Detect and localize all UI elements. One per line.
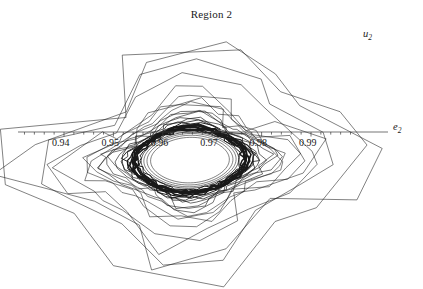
x-tick-label: 0.95 bbox=[101, 137, 119, 148]
x-tick-label: 0.99 bbox=[299, 137, 317, 148]
orbit-curves-group bbox=[0, 42, 382, 287]
x-tick-label: 0.98 bbox=[250, 137, 268, 148]
orbit-3 bbox=[42, 59, 333, 265]
y-axis-label: u2 bbox=[363, 28, 372, 42]
x-tick-label: 0.97 bbox=[200, 137, 218, 148]
axes-group bbox=[0, 42, 388, 272]
orbit-1 bbox=[0, 50, 366, 287]
x-tick-label: 0.96 bbox=[151, 137, 169, 148]
orbit-2 bbox=[0, 42, 382, 270]
orbit-7 bbox=[83, 105, 305, 222]
x-tick-label: 0.94 bbox=[52, 137, 70, 148]
x-axis-label: e2 bbox=[393, 121, 401, 135]
figure-region-2: Region 2 e2 u2 0.940.950.960.970.980.99 … bbox=[0, 0, 423, 289]
